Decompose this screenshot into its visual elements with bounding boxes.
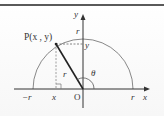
point-p: [55, 43, 58, 46]
polar-coordinate-figure: y r P(x , y) y r θ −r x O r x: [0, 0, 164, 116]
y-axis-label: y: [73, 9, 78, 19]
point-p-label: P(x , y): [24, 32, 52, 43]
right-angle-mark: [56, 84, 61, 89]
theta-label: θ: [91, 68, 96, 78]
top-r-label: r: [76, 26, 80, 36]
x-axis-label: x: [142, 92, 147, 102]
y-tick-label: y: [84, 40, 89, 50]
x-tick-label: x: [51, 92, 56, 102]
x-axis-arrow-icon: [144, 87, 150, 92]
pos-r-label: r: [131, 92, 135, 102]
diagram-canvas: y r P(x , y) y r θ −r x O r x: [0, 0, 164, 116]
radius-label: r: [63, 69, 67, 79]
origin-label: O: [74, 92, 81, 102]
y-axis-arrow-icon: [81, 14, 86, 20]
radius-segment: [56, 44, 83, 89]
top-border: [0, 4, 164, 6]
neg-r-label: −r: [22, 92, 32, 102]
